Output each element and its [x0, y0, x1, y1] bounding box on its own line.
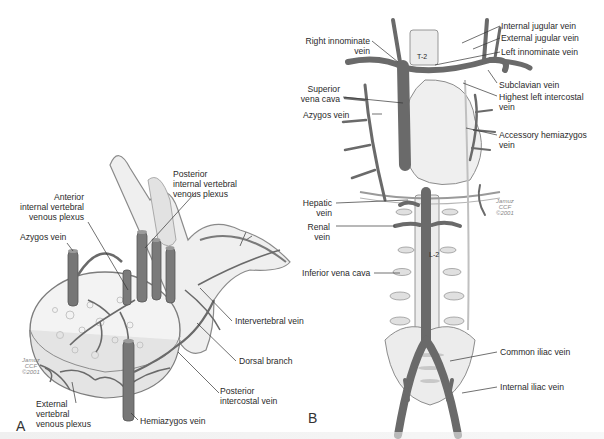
- figure-caption-fragment: [0, 432, 604, 439]
- label-azygos-vein-b: Azygos vein: [303, 110, 349, 120]
- label-superior-vena-cava: Superior vena cava: [298, 84, 340, 104]
- label-hepatic-vein: Hepatic vein: [298, 198, 332, 218]
- label-line: vein: [499, 102, 584, 112]
- label-line: venous plexus: [16, 212, 84, 222]
- label-line: Highest left intercostal: [499, 92, 584, 102]
- label-external-plexus: External vertebral venous plexus: [36, 399, 91, 429]
- label-renal-vein: Renal vein: [298, 222, 330, 242]
- label-line: Anterior: [16, 192, 84, 202]
- label-azygos-vein-a: Azygos vein: [20, 232, 66, 242]
- label-intervertebral-vein: Intervertebral vein: [235, 316, 304, 326]
- label-line: Accessory hemiazygos: [499, 130, 587, 140]
- artist-signature-a: Jamuz CCF ©2001: [22, 357, 40, 375]
- label-line: Right innominate: [300, 36, 370, 46]
- label-line: Posterior: [173, 169, 237, 179]
- vertebra-label-l2: L-2: [429, 250, 439, 260]
- label-line: vein: [298, 208, 332, 218]
- label-posterior-internal-plexus: Posterior internal vertebral venous plex…: [173, 169, 237, 199]
- label-line: External: [36, 399, 91, 409]
- label-dorsal-branch: Dorsal branch: [239, 356, 293, 366]
- label-accessory-hemiazygos: Accessory hemiazygos vein: [499, 130, 587, 150]
- panel-letter-b: B: [308, 410, 317, 426]
- label-line: vein: [298, 232, 330, 242]
- label-anterior-internal-plexus: Anterior internal vertebral venous plexu…: [16, 192, 84, 222]
- label-line: vein: [300, 46, 370, 56]
- label-line: venous plexus: [173, 189, 237, 199]
- figure-artwork: [0, 0, 604, 439]
- label-inferior-vena-cava: Inferior vena cava: [302, 268, 370, 278]
- label-subclavian: Subclavian vein: [499, 80, 559, 90]
- label-posterior-intercostal-vein: Posterior intercostal vein: [220, 386, 277, 406]
- artist-signature-b: Jamuz CCF ©2001: [496, 198, 514, 216]
- label-internal-iliac: Internal iliac vein: [500, 382, 564, 392]
- label-line: intercostal vein: [220, 396, 277, 406]
- label-right-innominate: Right innominate vein: [300, 36, 370, 56]
- label-line: vein: [499, 140, 587, 150]
- label-line: venous plexus: [36, 419, 91, 429]
- label-left-innominate: Left innominate vein: [501, 47, 578, 57]
- label-line: Posterior: [220, 386, 277, 396]
- label-line: vena cava: [298, 94, 340, 104]
- vertebra-label-t2: T-2: [417, 52, 427, 62]
- label-line: internal vertebral: [16, 202, 84, 212]
- signature-line: ©2001: [496, 210, 514, 216]
- label-line: Renal: [298, 222, 330, 232]
- signature-line: ©2001: [22, 369, 40, 375]
- label-line: Superior: [298, 84, 340, 94]
- label-internal-jugular: Internal jugular vein: [501, 21, 576, 31]
- label-common-iliac: Common iliac vein: [500, 347, 570, 357]
- label-line: internal vertebral: [173, 179, 237, 189]
- label-highest-left-intercostal: Highest left intercostal vein: [499, 92, 584, 112]
- label-line: Hepatic: [298, 198, 332, 208]
- label-line: vertebral: [36, 409, 91, 419]
- label-hemiazygos-vein: Hemiazygos vein: [140, 416, 205, 426]
- label-external-jugular: External jugular vein: [501, 33, 579, 43]
